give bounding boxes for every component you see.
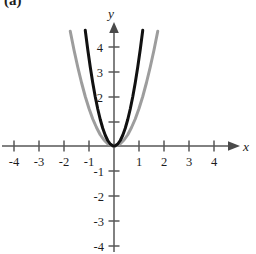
- y-tick-label: -4: [94, 240, 105, 254]
- x-tick-label: -2: [59, 155, 69, 169]
- y-tick-label: 3: [97, 66, 103, 80]
- parabola-plot: x y: [0, 0, 256, 254]
- x-tick-label: -4: [9, 155, 20, 169]
- y-tick-label: -2: [94, 190, 104, 204]
- x-tick-label: 1: [136, 155, 142, 169]
- x-tick-label: 4: [211, 155, 218, 169]
- x-axis-arrowhead: [228, 141, 240, 151]
- y-tick-label: -1: [94, 165, 104, 179]
- x-tick-label: -3: [34, 155, 44, 169]
- y-axis-label: y: [106, 6, 114, 21]
- y-tick-labels-positive: 4 3 2: [97, 41, 104, 105]
- x-axis-label: x: [242, 139, 249, 154]
- y-tick-labels-negative: -1 -2 -3 -4: [94, 165, 105, 254]
- figure-panel: (a) x y: [0, 0, 256, 254]
- y-axis-arrowhead: [109, 22, 119, 33]
- y-axis: y: [106, 6, 119, 252]
- y-tick-label: -3: [94, 215, 104, 229]
- y-tick-label: 4: [97, 41, 104, 55]
- x-tick-label: 3: [186, 155, 192, 169]
- x-tick-label: 2: [161, 155, 167, 169]
